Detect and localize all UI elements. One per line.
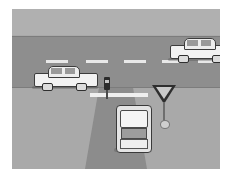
car-window-front — [187, 40, 198, 46]
signal-post-lamp — [105, 80, 109, 83]
yield-sign-pole — [163, 102, 165, 122]
car-wheel-rear — [212, 55, 220, 63]
illustration-canvas: Road intersection scene Overhead illustr… — [0, 0, 232, 178]
center-line-dash — [46, 60, 68, 63]
stop-line — [90, 93, 148, 97]
field-top — [12, 9, 220, 35]
car-wheel-rear — [76, 83, 87, 91]
car-left — [34, 66, 96, 90]
car-wheel-front — [178, 55, 189, 63]
ground-area: Road intersection scene Overhead illustr… — [12, 9, 220, 169]
car-trunk — [120, 139, 148, 149]
signal-post-stem — [106, 90, 108, 99]
center-line-dash — [124, 60, 146, 63]
yield-sign-base — [160, 120, 170, 129]
yield-sign — [152, 85, 176, 127]
main-road-edge-top — [12, 36, 220, 37]
car-window-rear — [65, 68, 75, 74]
signal-post — [104, 77, 110, 99]
signal-post-head — [104, 77, 110, 90]
center-line-dash — [86, 60, 108, 63]
car-window-front — [51, 68, 62, 74]
car-bottom — [116, 105, 150, 151]
car-wheel-front — [42, 83, 53, 91]
car-rear-window — [121, 128, 147, 139]
car-window-rear — [201, 40, 211, 46]
car-roof — [120, 110, 148, 128]
car-right — [170, 38, 220, 62]
